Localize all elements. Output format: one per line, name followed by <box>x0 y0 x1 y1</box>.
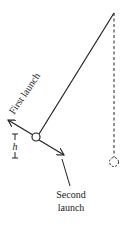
pendulum-string <box>39 13 114 134</box>
pendulum-diagram: h First launch Second launch <box>0 0 122 226</box>
pendulum-ball <box>32 133 40 141</box>
second-launch-leader <box>62 159 70 186</box>
second-launch-label-line1: Second <box>56 189 85 200</box>
height-marker: h <box>12 134 18 158</box>
second-launch-label-line2: launch <box>58 202 85 213</box>
second-launch-arrow <box>39 140 64 155</box>
rest-position-ball <box>110 158 119 167</box>
height-label: h <box>13 141 18 152</box>
first-launch-arrow <box>8 120 33 135</box>
first-launch-label: First launch <box>7 71 43 117</box>
